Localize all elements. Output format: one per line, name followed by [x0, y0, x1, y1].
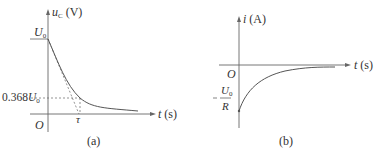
- x-axis-arrow-icon: [345, 63, 351, 67]
- i-var: i: [243, 12, 246, 26]
- diagram-canvas: [0, 0, 382, 156]
- tau-label: τ: [76, 114, 80, 125]
- y-axis-label-i: i (A): [243, 13, 266, 25]
- y-axis-label-uc: uC (V): [52, 6, 82, 20]
- start-point: [238, 110, 240, 112]
- t-unit: (s): [360, 58, 373, 72]
- u0-sub: 0: [43, 32, 47, 40]
- x-axis-arrow-icon: [150, 112, 156, 116]
- level-coef: 0.368: [2, 91, 28, 103]
- i-unit: (A): [249, 12, 266, 26]
- panel-a-graph: [30, 9, 156, 132]
- num-sub: 0: [229, 90, 233, 98]
- caption-b: (b): [279, 135, 293, 147]
- u0-var: U: [34, 25, 43, 39]
- current-curve: [239, 67, 335, 111]
- fraction-numerator: U0: [221, 85, 232, 98]
- u0-label: U0: [34, 26, 46, 40]
- level-sub: 0: [36, 97, 40, 105]
- x-axis-label-b: t (s): [354, 59, 373, 71]
- y-axis-arrow-icon: [46, 9, 50, 15]
- origin-label-a: O: [35, 119, 44, 131]
- fraction-denominator: R: [222, 101, 229, 112]
- num-var: U: [221, 84, 229, 96]
- y-axis-arrow-icon: [237, 16, 241, 22]
- decay-curve: [48, 39, 138, 111]
- t-unit: (s): [164, 107, 177, 121]
- t-var: t: [354, 58, 357, 72]
- x-axis-label-a: t (s): [158, 108, 177, 120]
- level-label: 0.368U0: [2, 92, 40, 105]
- caption-a: (a): [87, 135, 100, 147]
- uc-sub: C: [58, 12, 63, 20]
- origin-label-b: O: [227, 68, 236, 80]
- uc-unit: (V): [66, 5, 83, 19]
- level-var: U: [28, 91, 36, 103]
- t-var: t: [158, 107, 161, 121]
